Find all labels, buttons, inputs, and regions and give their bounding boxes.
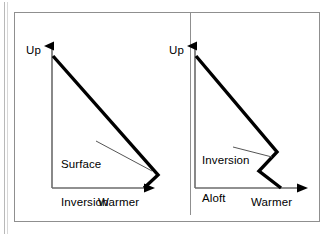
right-annotation: Inversion Aloft	[202, 129, 250, 229]
right-y-axis-label: Up	[169, 44, 184, 57]
left-y-axis-label: Up	[26, 44, 41, 57]
left-annotation-line-2: Inversion	[61, 196, 109, 209]
left-annotation: Surface Inversion	[61, 133, 109, 233]
left-annotation-line-1: Surface	[61, 158, 109, 171]
right-annotation-line-2: Aloft	[202, 192, 250, 205]
page-rule-outer	[4, 2, 5, 234]
right-x-axis-label: Warmer	[251, 196, 292, 209]
inversion-figure: Up Warmer Surface Inversion Up Warmer In…	[0, 0, 334, 236]
right-annotation-line-1: Inversion	[202, 154, 250, 167]
page-rule-inner	[7, 2, 8, 234]
